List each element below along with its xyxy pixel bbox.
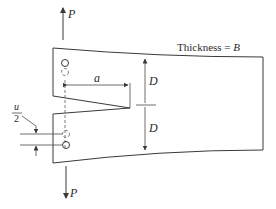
load-label-top: P: [68, 8, 75, 20]
thickness-text: Thickness =: [177, 41, 233, 53]
pin-hole-lower: [63, 142, 70, 149]
pin-hole-upper-displaced: [62, 69, 69, 76]
height-label-lower: D: [149, 122, 158, 134]
displacement-denominator: 2: [14, 114, 19, 124]
pin-hole-upper: [62, 60, 69, 67]
diagram-drawing: [0, 0, 276, 209]
displacement-numerator: u: [14, 102, 19, 112]
crack-length-label: a: [94, 72, 100, 84]
thickness-label: Thickness = B: [177, 42, 240, 53]
height-label-upper: D: [149, 75, 158, 87]
pin-hole-lower-displaced: [63, 131, 70, 138]
load-label-bottom: P: [70, 187, 77, 199]
dcb-specimen-diagram: P P a D D Thickness = B u 2: [0, 0, 276, 209]
displacement-leader: [22, 116, 36, 126]
thickness-symbol: B: [233, 41, 240, 53]
specimen-outline: [53, 48, 263, 163]
